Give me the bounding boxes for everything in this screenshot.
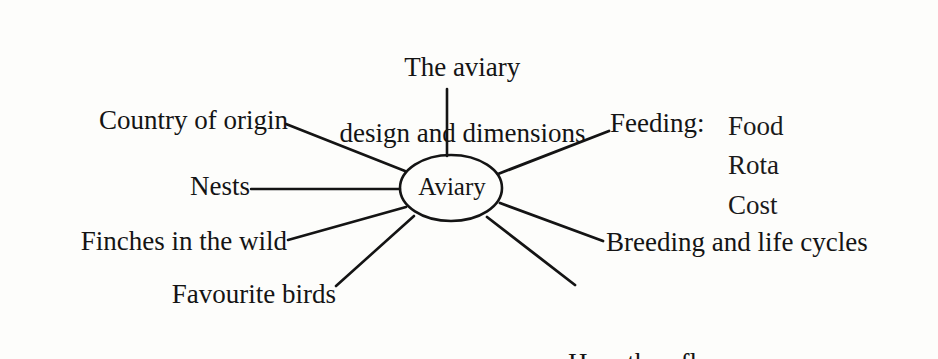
branch-label-how-they-fly: How they fly Feathers	[568, 281, 710, 359]
spider-diagram: Aviary The aviary design and dimensions …	[0, 0, 938, 359]
branch-label-country-of-origin: Country of origin	[16, 104, 288, 137]
feeding-item-cost: Cost	[728, 186, 784, 225]
branch-label-finches-in-the-wild: Finches in the wild	[6, 225, 287, 258]
branch-label-aviary-design: The aviary design and dimensions	[269, 18, 629, 183]
aviary-design-line-2: design and dimensions	[340, 118, 586, 148]
branch-label-feeding: Feeding:	[610, 107, 705, 140]
branch-label-nests: Nests	[60, 170, 250, 203]
connector-favourite-birds	[336, 216, 414, 286]
branch-label-breeding-and-life-cycles: Breeding and life cycles	[606, 226, 868, 259]
aviary-design-line-1: The aviary	[404, 52, 520, 82]
connector-breeding-and-life-cycles	[500, 203, 603, 241]
branch-label-favourite-birds: Favourite birds	[60, 278, 336, 311]
feeding-item-rota: Rota	[728, 146, 784, 185]
connector-finches-in-the-wild	[288, 207, 406, 240]
how-they-fly-line: How they fly	[568, 347, 710, 359]
feeding-item-food: Food	[728, 107, 784, 146]
feeding-sub-items-list: Food Rota Cost	[728, 107, 784, 225]
